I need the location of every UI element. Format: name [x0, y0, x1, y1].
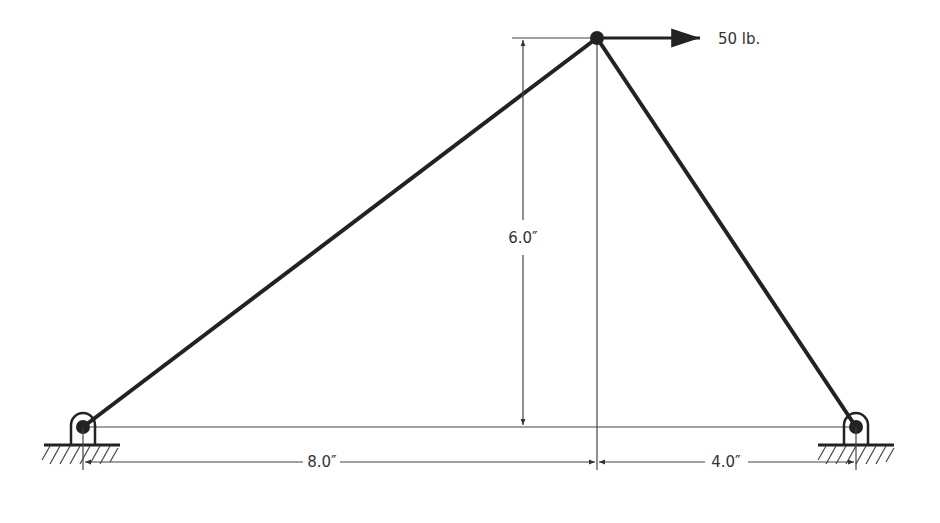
- right-member: [597, 38, 856, 427]
- load-label: 50 lb.: [718, 30, 760, 48]
- truss-diagram: 50 lb. 6.0″: [0, 0, 940, 523]
- height-dimension-label: 6.0″: [508, 229, 538, 247]
- apex-joint: [590, 31, 604, 45]
- right-span-label: 4.0″: [711, 453, 741, 471]
- left-span-label: 8.0″: [307, 453, 337, 471]
